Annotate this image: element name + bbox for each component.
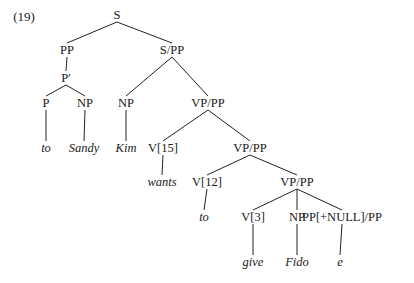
- tree-edge: [117, 22, 172, 43]
- tree-edge: [126, 57, 172, 96]
- tree-node-label: P′: [61, 72, 71, 85]
- tree-node-label: VP/PP: [191, 97, 224, 110]
- tree-leaf-word: Kim: [116, 142, 137, 155]
- tree-edge: [162, 155, 163, 175]
- tree-edge: [67, 22, 117, 43]
- tree-node-label: V[3]: [241, 211, 265, 224]
- tree-node-label: PP: [60, 44, 74, 57]
- tree-edge: [66, 57, 67, 71]
- tree-edge: [46, 85, 66, 96]
- tree-edge: [208, 110, 250, 141]
- tree-leaf-word: give: [243, 256, 264, 269]
- tree-edge: [66, 85, 85, 96]
- tree-edge: [163, 110, 208, 141]
- tree-edge: [250, 155, 297, 175]
- tree-node-label: PP[+NULL]/PP: [302, 211, 382, 224]
- tree-edge: [204, 189, 207, 210]
- tree-leaf-word: to: [41, 142, 51, 155]
- tree-edge: [253, 189, 297, 210]
- tree-edge: [84, 110, 85, 141]
- tree-node-label: NP: [77, 97, 93, 110]
- tree-node-label: S: [114, 9, 121, 22]
- tree-leaf-word: to: [199, 211, 209, 224]
- tree-leaf-word: Fido: [285, 256, 309, 269]
- example-number: (19): [13, 10, 35, 23]
- tree-leaf-word: Sandy: [69, 142, 100, 155]
- tree-node-label: VP/PP: [280, 176, 313, 189]
- tree-edge: [172, 57, 208, 96]
- tree-node-label: NP: [118, 97, 134, 110]
- tree-leaf-word: e: [337, 256, 343, 269]
- tree-node-label: VP/PP: [233, 142, 266, 155]
- tree-edge: [340, 224, 342, 255]
- tree-node-label: P: [43, 97, 50, 110]
- tree-node-label: V[12]: [192, 176, 222, 189]
- tree-node-label: S/PP: [160, 44, 184, 57]
- tree-node-label: V[15]: [148, 142, 178, 155]
- tree-edge: [297, 189, 342, 210]
- tree-leaf-word: wants: [147, 176, 176, 189]
- tree-edge: [207, 155, 250, 175]
